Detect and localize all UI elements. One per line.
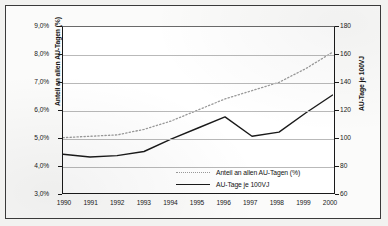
x-axis-tick-label: 1991: [77, 199, 105, 206]
chart-frame: Anteil an allen AU-Tagen (%) AU-Tage je …: [5, 5, 381, 219]
x-axis-tick-label: 1999: [289, 199, 317, 206]
y-axis-right-tick-mark: [335, 82, 339, 83]
x-axis-tick-label: 1993: [130, 199, 158, 206]
gridline: [63, 55, 334, 56]
legend-item: AU-Tage je 100VJ: [176, 178, 300, 190]
y-axis-right-tick-label: 100: [340, 134, 351, 141]
x-axis-tick-label: 1997: [236, 199, 264, 206]
gridline: [63, 139, 334, 140]
x-axis-tick-label: 1995: [183, 199, 211, 206]
legend-item: Anteil an allen AU-Tagen (%): [176, 166, 300, 178]
y-axis-left-tick-label: 4,0%: [34, 162, 49, 169]
y-axis-right-tick-label: 60: [340, 190, 347, 197]
y-axis-right-tick-label: 140: [340, 78, 351, 85]
y-axis-left-tick-label: 3,0%: [34, 190, 49, 197]
gridline: [63, 83, 334, 84]
x-axis-tick-label: 1990: [50, 199, 78, 206]
x-axis-tick-label: 2000: [316, 199, 344, 206]
gridline: [63, 111, 334, 112]
y-axis-left-tick-label: 5,0%: [34, 134, 49, 141]
y-axis-left-tick-label: 7,0%: [34, 78, 49, 85]
y-axis-right-tick-label: 180: [340, 22, 351, 29]
x-axis-tick-label: 1994: [156, 199, 184, 206]
y-axis-right-title: AU-Tage je 100VJ: [358, 29, 365, 139]
legend-line-icon: [176, 172, 210, 173]
y-axis-right-tick-mark: [335, 194, 339, 195]
y-axis-right-tick-label: 120: [340, 106, 351, 113]
y-axis-left-tick-mark: [58, 194, 62, 195]
legend-line-icon: [176, 184, 210, 185]
y-axis-right-tick-mark: [335, 54, 339, 55]
series-line: [63, 52, 333, 138]
y-axis-left-tick-label: 8,0%: [34, 50, 49, 57]
y-axis-right-tick-mark: [335, 110, 339, 111]
x-axis-tick-label: 1998: [263, 199, 291, 206]
x-axis-tick-label: 1996: [210, 199, 238, 206]
y-axis-right-tick-mark: [335, 166, 339, 167]
series-line: [63, 95, 333, 157]
y-axis-right-tick-label: 160: [340, 50, 351, 57]
y-axis-left-title: Anteil an allen AU-Tagen (%): [54, 7, 61, 117]
y-axis-left-tick-label: 9,0%: [34, 22, 49, 29]
y-axis-left-tick-label: 6,0%: [34, 106, 49, 113]
chart-page: Anteil an allen AU-Tagen (%) AU-Tage je …: [0, 0, 388, 226]
y-axis-right-tick-mark: [335, 138, 339, 139]
y-axis-right-tick-label: 80: [340, 162, 347, 169]
x-axis-tick-label: 1992: [103, 199, 131, 206]
legend-item-label: Anteil an allen AU-Tagen (%): [216, 169, 300, 176]
legend-item-label: AU-Tage je 100VJ: [216, 181, 269, 188]
y-axis-right-tick-mark: [335, 26, 339, 27]
chart-legend: Anteil an allen AU-Tagen (%)AU-Tage je 1…: [176, 166, 300, 190]
